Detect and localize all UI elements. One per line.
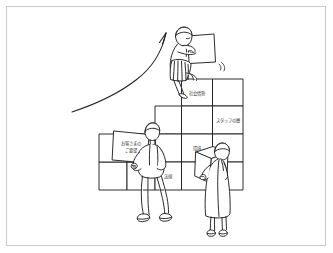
- box-label-line1: お客さまの: [121, 140, 141, 147]
- leg-right-woman-left: [210, 217, 211, 230]
- block-cell: [99, 162, 127, 190]
- hand-walking-man-back: [131, 163, 137, 169]
- block-label-hoki: 法規: [164, 173, 173, 180]
- motion-lines-top: [219, 63, 225, 72]
- scene-illustration: 社会情勢 スタッフの層 環境 法規: [0, 0, 333, 253]
- shoe-walking-man-front: [159, 214, 171, 222]
- growth-arrow: [72, 33, 166, 112]
- block-label-staff-layer: スタッフの層: [216, 117, 240, 124]
- block-label-shakai-jousei: 社会情勢: [189, 90, 206, 97]
- block-cell: [213, 79, 244, 106]
- illustration-canvas: 社会情勢 スタッフの層 環境 法規: [0, 0, 333, 253]
- shoe-walking-man-back: [137, 214, 150, 222]
- hand-right-woman: [200, 174, 206, 179]
- leg-right-woman-right: [222, 218, 223, 231]
- box-label-line2: ご要望: [125, 147, 138, 154]
- block-cell: [182, 106, 213, 134]
